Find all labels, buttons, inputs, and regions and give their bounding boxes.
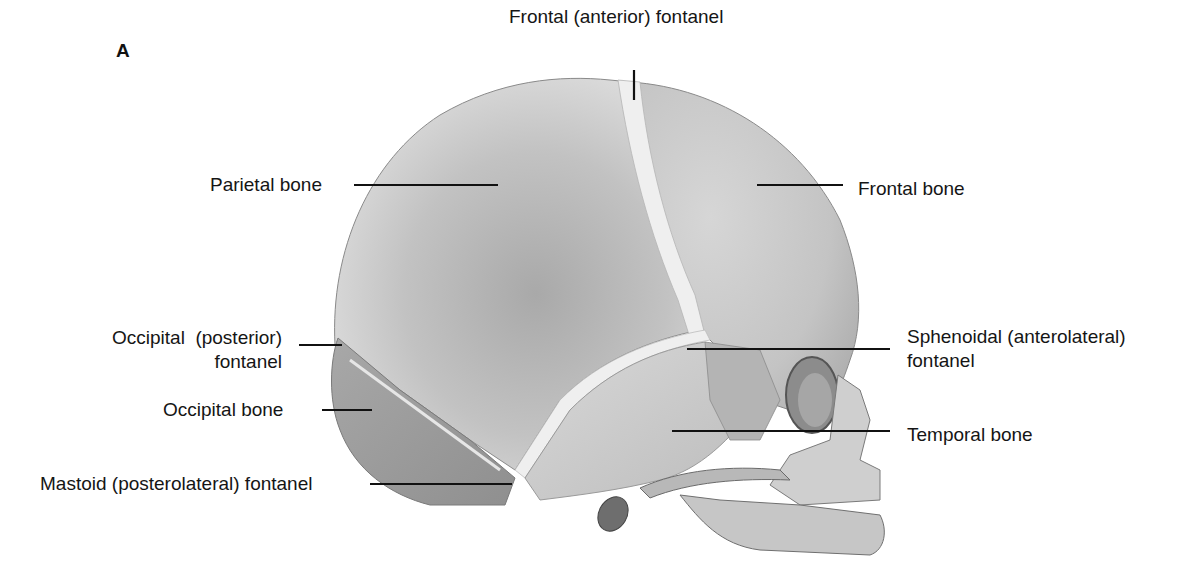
- label-occipital-fontanel-line1: Occipital (posterior): [112, 327, 282, 349]
- label-mastoid-fontanel: Mastoid (posterolateral) fontanel: [40, 473, 312, 495]
- label-parietal-bone: Parietal bone: [210, 174, 322, 196]
- skull-diagram-figure: A Frontal (anterior) fontanel Parietal b…: [0, 0, 1204, 575]
- label-frontal-bone: Frontal bone: [858, 178, 965, 200]
- label-sphenoidal-fontanel-line1: Sphenoidal (anterolateral): [907, 326, 1126, 348]
- external-acoustic-meatus-shape: [592, 491, 634, 536]
- panel-letter: A: [116, 40, 130, 62]
- label-sphenoidal-fontanel-line2: fontanel: [907, 350, 975, 372]
- mandible-shape: [680, 495, 884, 555]
- label-temporal-bone: Temporal bone: [907, 424, 1033, 446]
- orbit-inner-shape: [798, 373, 832, 427]
- label-frontal-anterior-fontanel: Frontal (anterior) fontanel: [509, 6, 723, 28]
- label-occipital-fontanel-line2: fontanel: [214, 351, 282, 373]
- label-occipital-bone: Occipital bone: [163, 399, 283, 421]
